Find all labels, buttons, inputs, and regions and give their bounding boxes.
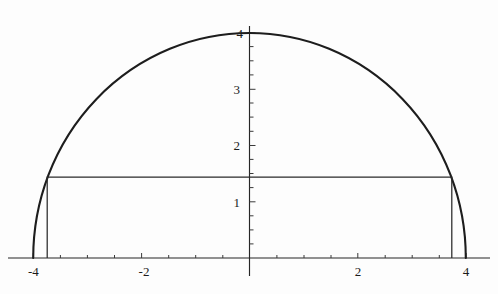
- x-tick-label-4: 4: [463, 264, 470, 279]
- y-tick-label-2: 2: [234, 138, 241, 153]
- y-tick-label-3: 3: [234, 82, 241, 97]
- x-tick-label-neg4: -4: [28, 264, 39, 279]
- y-tick-label-1: 1: [234, 195, 241, 210]
- y-tick-label-4: 4: [237, 26, 244, 41]
- semicircle-plot: -4 -2 2 4 1 2 3 4: [0, 0, 498, 294]
- x-tick-label-neg2: -2: [139, 264, 150, 279]
- x-tick-label-2: 2: [355, 264, 362, 279]
- chart-figure: -4 -2 2 4 1 2 3 4: [0, 0, 498, 294]
